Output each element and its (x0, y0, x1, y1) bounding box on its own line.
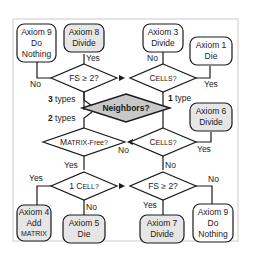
axiom-1: Axiom 1 Die (190, 37, 232, 65)
svg-text:Do: Do (208, 218, 219, 228)
edge-label-one-cell-yes: Yes (29, 173, 43, 183)
edge-label-matrix-free-yes: Yes (64, 160, 78, 170)
svg-text:Axiom 5: Axiom 5 (69, 218, 100, 228)
axiom-7: Axiom 7 Divide (140, 215, 184, 243)
svg-text:Die: Die (205, 51, 218, 61)
svg-text:MATRIX: MATRIX (21, 230, 47, 237)
axiom-3: Axiom 3 Divide (143, 24, 183, 52)
svg-text:Axiom 1: Axiom 1 (196, 40, 227, 50)
edge-label-one-type: 1 type (168, 93, 191, 103)
axiom-9-top: Axiom 9 Do Nothing (17, 24, 56, 62)
axiom-6: Axiom 6 Divide (190, 103, 232, 131)
svg-text:Divide: Divide (72, 38, 96, 48)
axiom-8: Axiom 8 Divide (64, 24, 104, 52)
edge-label-two-types: 2 types (48, 113, 75, 123)
decision-fs-bottom-label: FS ≥ 2? (148, 181, 178, 191)
svg-text:Axiom 7: Axiom 7 (147, 218, 178, 228)
axiom-9-bottom: Axiom 9 Do Nothing (193, 204, 233, 242)
axiom-4: Axiom 4 Add MATRIX (17, 205, 51, 241)
svg-text:Die: Die (78, 229, 91, 239)
edge-label-fs-top-yes: Yes (86, 53, 100, 63)
flowchart: FS ≥ 2? CELLS? Neighbors? MATRIX-Free? C… (0, 0, 253, 256)
svg-text:Axiom 9: Axiom 9 (21, 27, 52, 37)
edge-label-fs-bottom-yes: Yes (143, 200, 157, 210)
decision-cells-mid-label: CELLS? (149, 137, 176, 147)
decision-cells-top-label: CELLS? (149, 73, 176, 83)
decision-neighbors-label: Neighbors? (102, 103, 149, 113)
axiom-5: Axiom 5 Die (63, 215, 105, 243)
svg-text:Divide: Divide (150, 229, 174, 239)
edge-label-matrix-free-no: No (118, 145, 129, 155)
edge-label-cells-mid-yes: Yes (197, 144, 211, 154)
svg-text:Axiom 8: Axiom 8 (69, 27, 100, 37)
edge-label-cells-top-yes: Yes (204, 79, 218, 89)
edge-label-fs-top-no: No (30, 79, 41, 89)
edge-label-fs-bottom-no: No (208, 174, 219, 184)
svg-text:Add: Add (26, 218, 41, 228)
edge-label-three-types: 3 types (48, 94, 75, 104)
svg-text:Axiom 6: Axiom 6 (196, 106, 227, 116)
decision-one-cell-label: 1 CELL? (69, 181, 99, 191)
svg-text:Nothing: Nothing (198, 229, 228, 239)
edge-label-cells-mid-no-down: No (165, 160, 176, 170)
svg-text:Axiom 9: Axiom 9 (198, 207, 229, 217)
decision-fs-top-label: FS ≥ 2? (69, 73, 99, 83)
svg-text:Do: Do (31, 38, 42, 48)
svg-text:Divide: Divide (151, 38, 175, 48)
svg-text:Nothing: Nothing (22, 49, 52, 59)
svg-text:Divide: Divide (199, 117, 223, 127)
svg-text:Axiom 3: Axiom 3 (148, 27, 179, 37)
decision-matrix-free-label: MATRIX-Free? (60, 137, 108, 147)
svg-text:Axiom 4: Axiom 4 (19, 207, 50, 217)
edge-label-cells-top-no: No (147, 53, 158, 63)
edge-label-one-cell-no: No (86, 202, 97, 212)
